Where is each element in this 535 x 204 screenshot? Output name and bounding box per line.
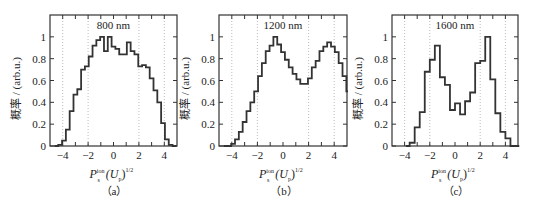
x-tick-label: −2 bbox=[252, 149, 264, 161]
x-tick-label: 4 bbox=[503, 149, 509, 161]
y-axis-label: 概率 / (arb.u.) bbox=[178, 57, 192, 120]
y-tick-label: 0.8 bbox=[201, 53, 215, 65]
y-tick-label: 0.8 bbox=[374, 53, 388, 65]
y-tick-label: 0 bbox=[383, 140, 389, 152]
y-tick-label: 0.2 bbox=[201, 118, 215, 130]
x-tick-label: −4 bbox=[57, 149, 69, 161]
chart-panel-a: −4−202400.20.40.60.81概率 / (arb.u.)800 nm… bbox=[0, 0, 178, 204]
x-tick-label: −2 bbox=[82, 149, 94, 161]
x-tick-label: 0 bbox=[111, 149, 117, 161]
y-tick-label: 0.4 bbox=[374, 96, 388, 108]
x-tick-label: −4 bbox=[226, 149, 238, 161]
y-tick-label: 0 bbox=[210, 140, 216, 152]
y-axis-label: 概率 / (arb.u.) bbox=[351, 57, 365, 120]
y-tick-label: 0.8 bbox=[32, 53, 46, 65]
plot-frame bbox=[392, 15, 518, 146]
histogram-line bbox=[223, 37, 348, 146]
histogram-1200nm: −4−202400.20.40.60.81概率 / (arb.u.)1200 n… bbox=[170, 0, 348, 204]
chart-title: 1600 nm bbox=[436, 19, 475, 31]
x-axis-label: Pions(Up)1/2 bbox=[89, 167, 134, 183]
chart-title: 800 nm bbox=[97, 19, 131, 31]
y-tick-label: 0.6 bbox=[201, 75, 215, 87]
x-tick-label: 2 bbox=[136, 149, 142, 161]
y-tick-label: 0.6 bbox=[32, 75, 46, 87]
y-tick-label: 1 bbox=[41, 31, 47, 43]
y-tick-label: 0.6 bbox=[374, 75, 388, 87]
y-tick-label: 0.4 bbox=[201, 96, 215, 108]
y-axis-label: 概率 / (arb.u.) bbox=[9, 57, 23, 120]
chart-title: 1200 nm bbox=[264, 19, 303, 31]
histogram-1600nm: −4−202400.20.40.60.81概率 / (arb.u.)1600 n… bbox=[343, 0, 521, 204]
x-tick-label: 0 bbox=[280, 149, 286, 161]
chart-panel-c: −4−202400.20.40.60.81概率 / (arb.u.)1600 n… bbox=[343, 0, 521, 204]
histogram-800nm: −4−202400.20.40.60.81概率 / (arb.u.)800 nm… bbox=[0, 0, 178, 204]
x-tick-label: 2 bbox=[477, 149, 483, 161]
x-tick-label: −2 bbox=[424, 149, 436, 161]
x-axis-label: Pions(Up)1/2 bbox=[258, 167, 303, 183]
y-tick-label: 0.4 bbox=[32, 96, 46, 108]
y-tick-label: 1 bbox=[383, 31, 389, 43]
plot-frame bbox=[219, 15, 347, 146]
panel-caption-c: （c） bbox=[426, 182, 486, 198]
panel-caption-a: （a） bbox=[84, 182, 144, 198]
y-tick-label: 1 bbox=[210, 31, 216, 43]
y-tick-label: 0.2 bbox=[374, 118, 388, 130]
histogram-line bbox=[406, 37, 519, 146]
y-tick-label: 0 bbox=[41, 140, 47, 152]
x-tick-label: 4 bbox=[331, 149, 337, 161]
chart-panel-b: −4−202400.20.40.60.81概率 / (arb.u.)1200 n… bbox=[170, 0, 348, 204]
x-axis-label: Pions(Up)1/2 bbox=[430, 167, 475, 183]
x-tick-label: −4 bbox=[399, 149, 411, 161]
x-tick-label: 0 bbox=[452, 149, 458, 161]
panel-caption-b: （b） bbox=[254, 182, 314, 198]
histogram-line bbox=[54, 37, 176, 146]
x-tick-label: 2 bbox=[306, 149, 312, 161]
y-tick-label: 0.2 bbox=[32, 118, 46, 130]
x-tick-label: 4 bbox=[162, 149, 168, 161]
